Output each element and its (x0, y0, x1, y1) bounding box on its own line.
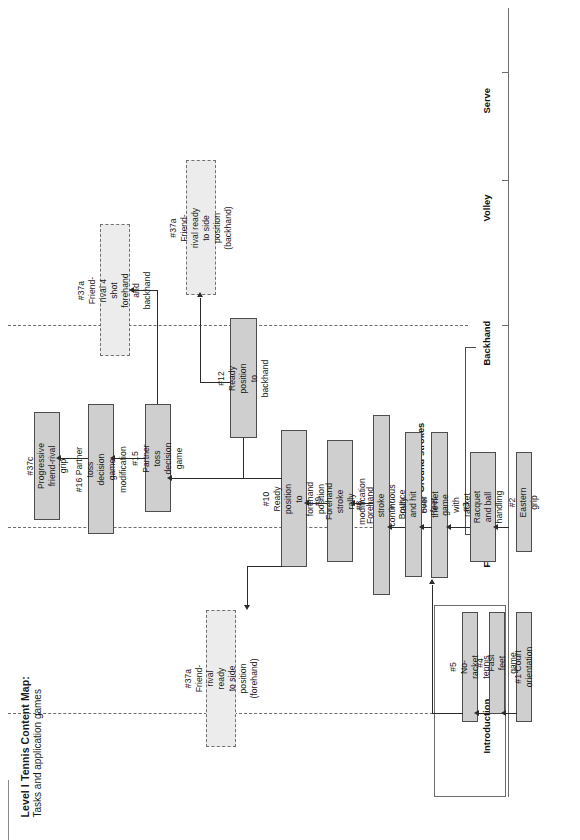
edge-arrow-5-to-6 (429, 579, 435, 584)
edge-9-to-10 (308, 503, 327, 504)
node-label: #10 Ready position to forehand position (261, 481, 327, 515)
node-10-ready-position-to-forehand-position[interactable]: #10 Ready position to forehand position (281, 430, 307, 567)
edge-12-to-37a-back-horizontal (200, 382, 231, 383)
axis-label-serve: Serve (481, 34, 492, 114)
edge-arrow-4-to-5 (474, 710, 479, 716)
node-label: #5 No-racket tennis (448, 655, 492, 679)
edge-3-to-6 (450, 527, 470, 528)
node-15-partner-toss-decision-game[interactable]: #15 Partner toss decision game (145, 404, 171, 512)
phase-axis-line (508, 8, 509, 797)
edge-10-to-37a-fore-horizontal (247, 566, 282, 567)
edge-16-to-37c (60, 458, 88, 459)
edge-arrow-7-to-8 (387, 524, 392, 530)
axis-tick-backhand (502, 325, 509, 326)
figure-rule (8, 780, 9, 840)
edge-arrow-3-to-6 (446, 524, 451, 530)
node-37a-friend-rival-4-shot-forehand-and-backhand[interactable]: #37a Friend-rival 4 shot forehand and ba… (100, 224, 130, 356)
edge-arrow-6-to-7 (419, 524, 424, 530)
node-label: #2 Eastern grip (508, 487, 541, 517)
node-8-forehand-stroke-continuous-rally[interactable]: #8 Forehand stroke continuous rally (373, 415, 390, 595)
edge-arrow-16-to-37c (56, 455, 61, 461)
edge-12-to-37a-back-vertical (200, 298, 201, 382)
edge-arrow-15-to-16 (110, 455, 115, 461)
edge-1-to-4 (505, 713, 517, 714)
edge-15-to-37a-4shot-horizontal (133, 290, 158, 291)
edge-arrow-15-to-37a-4shot (129, 287, 134, 293)
node-label: #37a Friend-rival ready to side position… (168, 206, 234, 249)
node-3-racquet-and-ball-handling[interactable]: #3 Racquet and ball handling (470, 452, 496, 562)
node-5-no-racket-tennis[interactable]: #5 No-racket tennis (462, 612, 478, 722)
edge-arrow-8-to-9 (350, 500, 355, 506)
edge-6-to-7 (423, 527, 432, 528)
axis-tick-volley (502, 180, 509, 181)
node-label: #16 Partner toss decision game modificat… (74, 446, 129, 492)
edge-12-to-15-vertical (243, 438, 244, 478)
axis-label-volley: Volley (481, 142, 492, 222)
edge-2-to-3 (497, 527, 509, 528)
lane-separator-introduction (8, 713, 468, 714)
edge-arrow-2-to-3 (493, 524, 498, 530)
edge-arrow-9-to-10 (304, 500, 309, 506)
edge-arrow-12-to-37a-back (197, 292, 203, 297)
edge-5-to-6-vertical (432, 585, 433, 714)
node-37a-friend-rival-ready-side-position-forehand[interactable]: #37a Friend-rival ready to side position… (206, 610, 236, 747)
edge-4-to-5 (478, 713, 490, 714)
node-37c-progressive-friend-rival-grip[interactable]: #37c Progressive friend-rival grip (34, 412, 60, 520)
axis-tick-serve (502, 72, 509, 73)
edge-12-to-15-horizontal (171, 478, 244, 479)
node-2-eastern-grip[interactable]: #2 Eastern grip (516, 452, 532, 552)
node-16-partner-toss-decision-game-modification[interactable]: #16 Partner toss decision game modificat… (88, 404, 114, 534)
edge-5-to-6-horizontal (432, 713, 463, 714)
edge-arrow-1-to-4 (501, 710, 506, 716)
edge-15-to-16 (114, 458, 146, 459)
edge-arrow-10-to-37a-fore (244, 605, 250, 610)
node-label: #12 Ready position to backhand (216, 359, 271, 397)
edge-10-to-37a-fore-vertical (247, 566, 248, 607)
node-37a-friend-rival-ready-side-position-backhand[interactable]: #37a Friend-rival ready to side position… (186, 160, 216, 295)
edge-15-to-37a-4shot-vertical (157, 290, 158, 404)
node-label: #37c Progressive friend-rival grip (25, 443, 69, 489)
edge-7-to-8 (391, 527, 405, 528)
node-12-ready-position-to-backhand[interactable]: #12 Ready position to backhand (230, 318, 257, 438)
axis-label-backhand: Backhand (481, 286, 492, 366)
edge-8-to-9 (354, 503, 373, 504)
node-label: #37a Friend-rival ready to side position… (183, 658, 260, 698)
